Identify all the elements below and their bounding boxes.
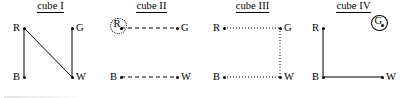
node-dot: [223, 27, 226, 30]
node-label-w: W: [76, 72, 86, 83]
node-label-g: G: [76, 23, 84, 34]
node-dot: [279, 27, 282, 30]
node-label-r: R: [312, 23, 319, 34]
node-dot: [176, 27, 179, 30]
node-label-w: W: [386, 72, 396, 83]
node-dot: [23, 76, 26, 79]
panel-cube-3: cube IIIRGBW: [202, 0, 303, 98]
node-label-g: G: [284, 23, 292, 34]
node-label-r: R: [213, 23, 220, 34]
bottom-edge-artifact: [4, 96, 82, 98]
panel-cube-4: cube IVRGBW: [303, 0, 404, 98]
node-label-b: B: [312, 72, 319, 83]
node-dot: [71, 27, 74, 30]
edge-layer-cube-1: [0, 0, 101, 98]
node-label-b: B: [110, 72, 117, 83]
node-dot: [120, 76, 123, 79]
node-dot: [381, 76, 384, 79]
node-dot: [23, 27, 26, 30]
node-dot: [176, 76, 179, 79]
node-dot: [71, 76, 74, 79]
node-label-g: G: [375, 16, 383, 27]
edge-layer-cube-4: [303, 0, 404, 98]
node-dot: [322, 76, 325, 79]
edge-layer-cube-2: [101, 0, 202, 98]
panel-cube-2: cube IIRGBW: [101, 0, 202, 98]
node-dot: [223, 76, 226, 79]
node-label-w: W: [181, 72, 191, 83]
node-label-g: G: [181, 23, 189, 34]
cube-graphs-figure: cube IRGBWcube IIRGBWcube IIIRGBWcube IV…: [0, 0, 404, 98]
node-label-b: B: [13, 72, 20, 83]
panel-cube-1: cube IRGBW: [0, 0, 101, 98]
edge-R-W-solid: [24, 28, 72, 77]
node-label-b: B: [213, 72, 220, 83]
node-dot: [279, 76, 282, 79]
edge-layer-cube-3: [202, 0, 303, 98]
node-dot: [322, 27, 325, 30]
node-label-r: R: [13, 23, 20, 34]
node-label-w: W: [284, 72, 294, 83]
node-label-r: R: [114, 19, 121, 30]
